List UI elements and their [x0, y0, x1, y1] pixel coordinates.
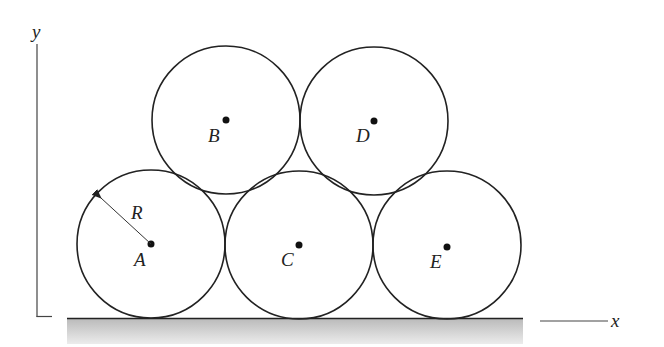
circle-B: B — [152, 46, 300, 194]
center-dot-C — [296, 242, 303, 249]
stacked-cylinders-diagram: y x A C E B D R — [0, 0, 664, 347]
label-C: C — [281, 249, 294, 270]
center-dot-E — [444, 244, 451, 251]
label-E: E — [429, 251, 442, 272]
center-dot-B — [223, 117, 230, 124]
radius-arrow — [101, 198, 151, 244]
circle-E: E — [373, 171, 521, 319]
radius-label: R — [130, 202, 143, 223]
x-axis-label: x — [610, 310, 620, 331]
label-D: D — [355, 125, 370, 146]
circle-C: C — [225, 171, 373, 319]
center-dot-D — [371, 118, 378, 125]
ground-surface — [67, 318, 523, 344]
label-A: A — [132, 249, 146, 270]
circle-D: D — [300, 47, 448, 195]
label-B: B — [208, 125, 220, 146]
y-axis-label: y — [30, 21, 41, 42]
